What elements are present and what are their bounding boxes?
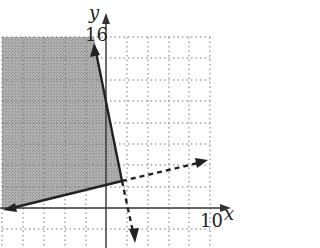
y-tick-label: 16 — [85, 24, 108, 45]
x-tick-label: 10 — [200, 210, 223, 231]
steep-dashed-line — [122, 181, 139, 243]
x-axis-label: x — [224, 203, 234, 224]
shallow-dashed-line — [122, 158, 208, 181]
y-axis-label: y — [89, 2, 99, 23]
